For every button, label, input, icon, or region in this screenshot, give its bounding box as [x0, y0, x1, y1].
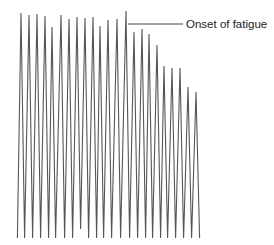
fatigue-chart: Onset of fatigue [0, 0, 274, 245]
onset-of-fatigue-label: Onset of fatigue [186, 18, 267, 30]
tension-trace [17, 11, 199, 238]
